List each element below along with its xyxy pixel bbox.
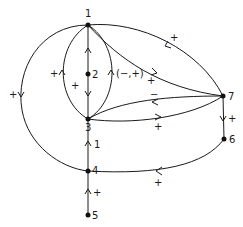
arrow-left-lens-icon xyxy=(59,70,65,75)
edge-label-3-7-lower: + xyxy=(154,121,162,132)
node-6 xyxy=(222,137,227,142)
edge-label-7-3-upper: − xyxy=(150,89,158,100)
arrow-1-7-middle-icon xyxy=(151,68,157,75)
node-5 xyxy=(86,213,91,218)
node-1 xyxy=(86,23,91,28)
node-label-1: 1 xyxy=(85,8,91,19)
edge-label-outer-left: + xyxy=(9,89,17,100)
node-label-2: 2 xyxy=(92,69,98,80)
signed-digraph: 1 2 3 4 5 6 7 + (−,+) + + + + − + + + 1 … xyxy=(0,0,243,227)
edge-label-2-3: + xyxy=(71,80,79,91)
node-label-4: 4 xyxy=(92,165,98,176)
edge-3-1-left-lens xyxy=(63,25,88,119)
edge-label-6-4: + xyxy=(154,177,162,188)
node-4 xyxy=(86,169,91,174)
edge-label-7-6: + xyxy=(228,113,236,124)
edge-7-6 xyxy=(223,96,224,139)
edge-7-1-top xyxy=(88,24,223,96)
arrow-3-7-lower-icon xyxy=(155,114,161,120)
edge-label-1-7-middle: + xyxy=(147,75,155,86)
edge-label-7-1-top: + xyxy=(170,32,178,43)
edge-label-5-4: + xyxy=(93,187,101,198)
edge-1-4-outer xyxy=(21,25,88,171)
node-label-5: 5 xyxy=(92,210,98,221)
node-label-3: 3 xyxy=(85,122,91,133)
edge-label-right-lens: (−,+) xyxy=(116,68,144,79)
edge-label-4-3: 1 xyxy=(94,139,100,150)
edge-1-7-middle xyxy=(88,25,223,96)
edge-label-left-lens: + xyxy=(50,68,58,79)
node-7 xyxy=(221,94,226,99)
node-3 xyxy=(86,117,91,122)
node-label-7: 7 xyxy=(228,91,234,102)
edge-6-4 xyxy=(88,139,224,172)
arrow-6-4-icon xyxy=(156,167,162,175)
arrow-right-lens-icon xyxy=(108,70,114,75)
node-2 xyxy=(86,72,91,77)
node-label-6: 6 xyxy=(229,134,235,145)
